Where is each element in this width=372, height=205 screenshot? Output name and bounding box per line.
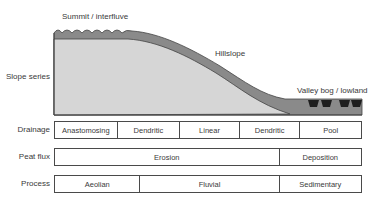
- peat-flux-cell-erosion: Erosion: [55, 149, 280, 165]
- process-label: Process: [2, 179, 50, 188]
- drainage-cell-linear: Linear: [180, 122, 240, 138]
- mineral-substrate: [54, 39, 290, 115]
- peat-flux-label: Peat flux: [2, 152, 50, 161]
- process-cell-fluvial: Fluvial: [140, 176, 279, 192]
- drainage-label: Drainage: [2, 125, 50, 134]
- hillslope-label: Hillslope: [215, 49, 245, 58]
- process-row: Aeolian Fluvial Sedimentary: [54, 175, 362, 193]
- process-cell-sedimentary: Sedimentary: [280, 176, 361, 192]
- drainage-cell-dendritic-1: Dendritic: [118, 122, 181, 138]
- drainage-cell-dendritic-2: Dendritic: [240, 122, 301, 138]
- peat-flux-cell-deposition: Deposition: [280, 149, 361, 165]
- drainage-cell-anastomosing: Anastomosing: [55, 122, 118, 138]
- drainage-cell-pool: Pool: [300, 122, 361, 138]
- slope-series-label: Slope series: [6, 72, 50, 81]
- slope-cross-section: [0, 0, 372, 120]
- summit-label: Summit / interfluve: [62, 12, 128, 21]
- drainage-row: Anastomosing Dendritic Linear Dendritic …: [54, 121, 362, 139]
- peat-flux-row: Erosion Deposition: [54, 148, 362, 166]
- process-cell-aeolian: Aeolian: [55, 176, 140, 192]
- valley-label: Valley bog / lowland: [297, 86, 368, 95]
